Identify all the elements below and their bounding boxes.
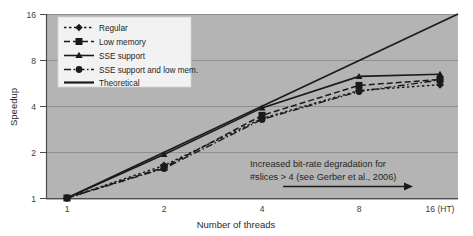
legend-marker-circle-icon — [76, 66, 83, 73]
y-tick-label-8: 8 — [31, 56, 36, 66]
legend-label-regular: Regular — [99, 24, 128, 33]
marker-sse-low-mem-1 — [64, 195, 71, 202]
y-axis-title: Speedup — [8, 88, 19, 126]
legend-label-low-memory: Low memory — [99, 38, 147, 47]
x-tick-label-1: 1 — [65, 204, 70, 214]
y-tick-label-16: 16 — [27, 10, 37, 20]
marker-sse-low-mem-4 — [259, 116, 266, 123]
x-tick-label-2: 2 — [162, 204, 167, 214]
legend-label-theoretical: Theoretical — [99, 79, 140, 88]
speedup-line-chart: 16 8 4 2 1 1 2 4 8 16 (HT) Number of thr… — [0, 0, 473, 236]
y-tick-label-2: 2 — [31, 148, 36, 158]
y-axis-tick-labels: 16 8 4 2 1 — [27, 10, 37, 204]
legend-marker-square-icon — [76, 38, 83, 45]
annotation-line-2: #slices > 4 (see Gerber et al., 2006) — [250, 172, 396, 182]
y-tick-label-4: 4 — [31, 102, 36, 112]
x-axis-title: Number of threads — [197, 219, 276, 230]
legend-label-sse-low-mem: SSE support and low mem. — [99, 66, 198, 75]
y-tick-label-1: 1 — [31, 194, 36, 204]
x-tick-label-8: 8 — [357, 204, 362, 214]
x-tick-label-4: 4 — [260, 204, 265, 214]
marker-sse-low-mem-8 — [356, 88, 363, 95]
chart-figure: 16 8 4 2 1 1 2 4 8 16 (HT) Number of thr… — [0, 0, 473, 236]
x-tick-label-16ht: 16 (HT) — [426, 204, 455, 214]
annotation-line-1: Increased bit-rate degradation for — [250, 159, 386, 169]
chart-legend: Regular Low memory SSE support SSE suppo… — [58, 17, 198, 88]
x-axis-tick-labels: 1 2 4 8 16 (HT) — [65, 204, 455, 214]
legend-label-sse-support: SSE support — [99, 52, 146, 61]
y-axis-ticks — [40, 15, 46, 199]
marker-sse-low-mem-16 — [437, 77, 444, 84]
marker-sse-low-mem-2 — [161, 165, 168, 172]
